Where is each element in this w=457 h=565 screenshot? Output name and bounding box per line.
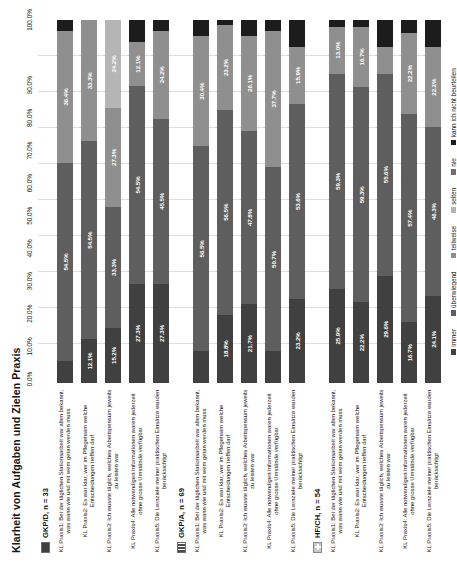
bar-segment[interactable]: 55.6%: [377, 74, 393, 276]
bar-segment[interactable]: [265, 20, 281, 31]
bar-category-label: KL Praxis4: Alle notwendigen Information…: [402, 383, 416, 555]
bar-segment[interactable]: 22.2%: [353, 302, 369, 383]
stacked-bar[interactable]: 16.7%57.4%22.2%: [401, 20, 417, 383]
bar-segment[interactable]: 47.8%: [241, 131, 257, 305]
bar-segment[interactable]: 26.1%: [241, 36, 257, 131]
legend-item[interactable]: nie: [450, 158, 457, 175]
legend-item[interactable]: immer: [450, 329, 457, 355]
bar-segment[interactable]: 24.2%: [105, 20, 121, 108]
bar-segment[interactable]: [153, 20, 169, 31]
bar-value-label: 50.7%: [270, 251, 277, 268]
bar-row: KL Praxis4: Alle notwendigen Information…: [397, 10, 421, 555]
bar-segment[interactable]: 27.3%: [129, 284, 145, 383]
legend-label: immer: [450, 329, 457, 347]
bar-value-label: 13.0%: [334, 42, 341, 59]
bar-segment[interactable]: 59.3%: [353, 87, 369, 302]
bar-segment[interactable]: 54.5%: [129, 86, 145, 284]
stacked-bar[interactable]: 25.9%59.3%13.0%: [329, 20, 345, 383]
bar-value-label: 59.3%: [358, 186, 365, 203]
bar-segment[interactable]: [353, 20, 369, 27]
bar-segment[interactable]: 13.0%: [329, 27, 345, 74]
bar-value-label: 12.1%: [86, 353, 93, 370]
bar-row: KL Praxis3: Ich wusste täglich, welches …: [101, 10, 125, 555]
bar-segment[interactable]: [265, 351, 281, 383]
bar-segment[interactable]: 56.5%: [217, 110, 233, 315]
group-marker-icon: [177, 542, 186, 553]
stacked-bar[interactable]: 29.6%55.6%: [377, 20, 393, 383]
bar-segment[interactable]: 37.7%: [265, 31, 281, 168]
bar-segment[interactable]: 24.2%: [153, 31, 169, 119]
bar-segment[interactable]: 25.9%: [329, 289, 345, 383]
bar-segment[interactable]: [377, 20, 393, 47]
bar-segment[interactable]: 12.1%: [129, 42, 145, 86]
stacked-bar[interactable]: 50.7%37.7%: [265, 20, 281, 383]
bar-segment[interactable]: 23.2%: [289, 299, 305, 383]
bar-value-label: 27.3%: [110, 149, 117, 166]
bar-segment[interactable]: 22.2%: [425, 47, 441, 128]
bar-value-label: 30.4%: [198, 83, 205, 100]
legend-item[interactable]: überwiegend: [450, 271, 457, 316]
bar-segment[interactable]: [289, 20, 305, 46]
stacked-bar[interactable]: 12.1%54.5%33.3%: [81, 20, 97, 383]
bar-row: KL Praxis5: Die Lernziele meiner praktis…: [285, 10, 309, 555]
bar-segment[interactable]: 36.4%: [57, 31, 73, 163]
bar-segment[interactable]: 33.3%: [105, 207, 121, 328]
bar-segment[interactable]: 15.9%: [289, 47, 305, 105]
bar-segment[interactable]: 30.4%: [193, 36, 209, 146]
bar-segment[interactable]: 29.6%: [377, 276, 393, 383]
bar-segment[interactable]: 56.5%: [193, 146, 209, 351]
stacked-bar[interactable]: 24.1%46.3%22.2%: [425, 20, 441, 383]
bar-segment[interactable]: 22.2%: [401, 33, 417, 114]
bar-segment[interactable]: 21.7%: [241, 304, 257, 383]
stacked-bar[interactable]: 18.8%56.5%23.2%: [217, 20, 233, 383]
stacked-bar[interactable]: 54.5%36.4%: [57, 20, 73, 383]
stacked-bar[interactable]: 21.7%47.8%26.1%: [241, 20, 257, 383]
bar-segment[interactable]: 16.7%: [353, 27, 369, 88]
bar-segment[interactable]: 46.3%: [425, 127, 441, 295]
bar-segment[interactable]: [217, 20, 233, 25]
bar-segment[interactable]: 59.3%: [329, 74, 345, 289]
stacked-bar[interactable]: 27.3%54.5%12.1%: [129, 20, 145, 383]
bar-segment[interactable]: [377, 47, 393, 74]
bar-segment[interactable]: [425, 20, 441, 47]
bar-segment[interactable]: 50.7%: [265, 167, 281, 351]
legend-item[interactable]: selten: [450, 188, 457, 213]
bar-segment[interactable]: 23.2%: [217, 25, 233, 109]
bar-segment[interactable]: [329, 20, 345, 27]
bar-value-label: 55.6%: [382, 166, 389, 183]
stacked-bar[interactable]: 27.3%45.5%24.2%: [153, 20, 169, 383]
stacked-bar[interactable]: 15.2%33.3%27.3%24.2%: [105, 20, 121, 383]
x-axis-tick-label: 0.0%: [26, 372, 33, 387]
bar-groups: GKP/D, n = 33KL Praxis1: Bei der täglich…: [39, 10, 445, 555]
bar-segment[interactable]: [57, 361, 73, 383]
bar-segment[interactable]: [193, 20, 209, 36]
bar-segment[interactable]: 27.3%: [105, 108, 121, 207]
bar-segment[interactable]: [241, 20, 257, 36]
bar-segment[interactable]: 18.8%: [217, 315, 233, 383]
bar-segment[interactable]: 57.4%: [401, 114, 417, 322]
bar-segment[interactable]: [129, 20, 145, 42]
bar-segment[interactable]: 27.3%: [153, 284, 169, 383]
bar-category-label: KL Praxis1: Bei der täglichen Stationsar…: [58, 383, 72, 555]
bar-value-label: 45.5%: [158, 193, 165, 210]
stacked-bar[interactable]: 56.5%30.4%: [193, 20, 209, 383]
bar-segment[interactable]: [57, 20, 73, 31]
bar-segment[interactable]: 54.5%: [57, 163, 73, 361]
bar-segment[interactable]: 15.2%: [105, 328, 121, 383]
bar-segment[interactable]: 16.7%: [401, 322, 417, 383]
bar-segment[interactable]: 53.6%: [289, 104, 305, 299]
bar-segment[interactable]: [401, 20, 417, 33]
stacked-bar[interactable]: 23.2%53.6%15.9%: [289, 20, 305, 383]
legend-item[interactable]: kann ich nicht beurteilen: [450, 68, 457, 145]
legend-item[interactable]: teilweise: [450, 226, 457, 259]
bar-segment[interactable]: 54.5%: [81, 141, 97, 339]
bar-segment[interactable]: 45.5%: [153, 119, 169, 284]
bar-segment[interactable]: 12.1%: [81, 339, 97, 383]
stacked-bar[interactable]: 22.2%59.3%16.7%: [353, 20, 369, 383]
bar-segment[interactable]: [193, 351, 209, 383]
bar-category-label: KL Praxis3: Ich wusste täglich, welches …: [378, 383, 392, 555]
x-axis-tick-label: 30.0%: [26, 272, 33, 290]
bar-segment[interactable]: 33.3%: [81, 20, 97, 141]
bar-segment[interactable]: 24.1%: [425, 296, 441, 383]
